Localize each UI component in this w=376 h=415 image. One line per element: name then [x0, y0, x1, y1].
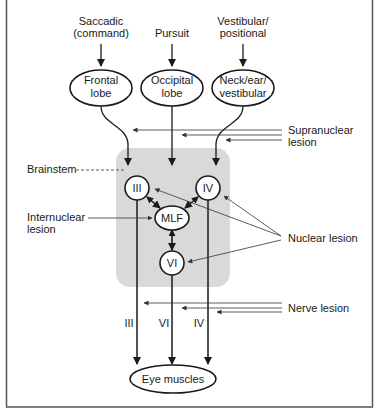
nerve-label-IV: IV [194, 317, 205, 329]
svg-text:lobe: lobe [162, 87, 183, 99]
nucleus-VI: VI [160, 251, 184, 275]
svg-text:Eye muscles: Eye muscles [142, 373, 205, 385]
svg-text:VI: VI [167, 257, 177, 269]
svg-text:Neck/ear/: Neck/ear/ [219, 74, 267, 86]
svg-text:Occipital: Occipital [151, 74, 193, 86]
eye-movement-pathway-diagram: Saccadic (command) Pursuit Vestibular/ p… [0, 0, 376, 415]
input-saccadic: Saccadic (command) [73, 15, 129, 39]
node-neck-ear-vestibular: Neck/ear/ vestibular [212, 70, 274, 106]
node-MLF: MLF [155, 206, 189, 230]
label-supranuclear-lesion: Supranuclear lesion [288, 124, 354, 148]
svg-text:vestibular: vestibular [219, 87, 266, 99]
input-pursuit: Pursuit [155, 27, 189, 39]
svg-text:lesion: lesion [27, 223, 56, 235]
nerve-label-VI: VI [159, 317, 169, 329]
svg-text:Supranuclear: Supranuclear [288, 124, 354, 136]
svg-text:MLF: MLF [161, 212, 183, 224]
node-occipital-lobe: Occipital lobe [141, 70, 203, 106]
label-nuclear-lesion: Nuclear lesion [288, 232, 358, 244]
svg-text:lesion: lesion [288, 136, 317, 148]
nucleus-IV: IV [196, 176, 220, 200]
nerve-label-III: III [124, 317, 133, 329]
svg-text:lobe: lobe [91, 87, 112, 99]
label-internuclear-lesion: Internuclear lesion [27, 211, 85, 235]
svg-text:Frontal: Frontal [84, 74, 118, 86]
label-nerve-lesion: Nerve lesion [288, 302, 349, 314]
node-frontal-lobe: Frontal lobe [70, 70, 132, 106]
nuclear-pointer-IV [224, 196, 281, 236]
label-brainstem: Brainstem [27, 163, 77, 175]
svg-text:(command): (command) [73, 27, 129, 39]
svg-text:Pursuit: Pursuit [155, 27, 189, 39]
node-eye-muscles: Eye muscles [130, 365, 216, 393]
nucleus-III: III [125, 176, 149, 200]
svg-text:IV: IV [203, 182, 214, 194]
svg-text:III: III [132, 182, 141, 194]
svg-text:Vestibular/: Vestibular/ [217, 15, 269, 27]
svg-text:Internuclear: Internuclear [27, 211, 85, 223]
svg-text:Saccadic: Saccadic [79, 15, 124, 27]
input-vestibular: Vestibular/ positional [217, 15, 269, 39]
svg-text:positional: positional [220, 27, 266, 39]
